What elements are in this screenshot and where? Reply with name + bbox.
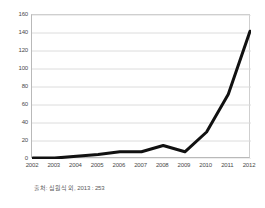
y-axis-tick-labels: 020406080100120140160 [0,14,28,158]
figure-container: 020406080100120140160 200220032004200520… [0,0,265,208]
gridlines-group [32,15,251,159]
line-chart-svg [32,15,251,159]
y-axis-tick-label: 120 [2,47,28,53]
plot-area [31,14,250,158]
x-axis-tick-labels: 2002200320042005200620072008200920102011… [31,162,250,174]
y-axis-tick-label: 160 [2,11,28,17]
y-axis-tick-label: 140 [2,29,28,35]
data-series-group [33,31,250,158]
y-axis-tick-label: 100 [2,65,28,71]
y-axis-tick-label: 40 [2,119,28,125]
y-axis-tick-label: 20 [2,137,28,143]
x-axis-tick-label: 2012 [234,162,264,169]
y-axis-tick-label: 0 [2,155,28,161]
source-caption: 출처: 심원식 외, 2013 : 253 [34,184,105,192]
data-line [33,31,250,158]
y-axis-tick-label: 60 [2,101,28,107]
y-axis-tick-label: 80 [2,83,28,89]
